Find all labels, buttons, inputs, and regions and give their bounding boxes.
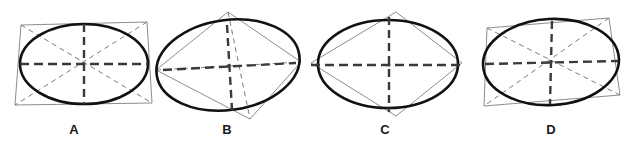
center-point-c xyxy=(387,63,390,66)
center-point-a xyxy=(82,62,85,65)
panel-d: D xyxy=(481,16,621,137)
panel-a: A xyxy=(15,22,152,137)
panel-label-a: A xyxy=(69,122,79,137)
center-point-b xyxy=(226,64,229,67)
panel-c: C xyxy=(311,12,462,137)
figure-board: A B C D xyxy=(0,0,630,147)
panel-label-b: B xyxy=(222,122,231,137)
center-point-d xyxy=(549,60,552,63)
panel-label-d: D xyxy=(546,122,555,137)
ellipse-quadrilateral-diagram: A B C D xyxy=(0,0,630,147)
panel-b: B xyxy=(150,10,305,137)
panel-label-c: C xyxy=(380,122,390,137)
